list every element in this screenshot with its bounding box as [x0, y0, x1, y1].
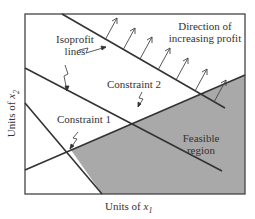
- y-axis-label: Units of x2: [5, 79, 20, 149]
- arrow-icon: [105, 18, 117, 40]
- direction-label-line1: Direction of: [160, 20, 250, 32]
- arrow-icon: [123, 28, 135, 50]
- arrow-icon: [158, 48, 170, 70]
- arrow-icon: [195, 69, 207, 91]
- constraint-1-label: Constraint 1: [57, 113, 111, 125]
- direction-label-line2: increasing profit: [160, 32, 250, 44]
- isoprofit-label: Isoprofit lines: [45, 33, 105, 57]
- x-axis-label-text: Units of x: [105, 200, 148, 212]
- arrow-icon: [140, 37, 152, 59]
- constraint-2-label: Constraint 2: [107, 78, 161, 90]
- direction-label: Direction of increasing profit: [160, 20, 250, 44]
- feasible-label-line1: Feasible: [176, 132, 226, 144]
- arrow-icon: [176, 58, 188, 80]
- feasible-region-label: Feasible region: [176, 132, 226, 156]
- isoprofit-label-line1: Isoprofit: [45, 33, 105, 45]
- feasible-label-line2: region: [176, 144, 226, 156]
- x-axis-subscript: 1: [148, 206, 152, 215]
- y-axis-subscript: 2: [12, 90, 21, 94]
- isoprofit-label-line2: lines: [45, 45, 105, 57]
- x-axis-label: Units of x1: [105, 200, 152, 215]
- y-axis-label-text: Units of x: [5, 94, 17, 137]
